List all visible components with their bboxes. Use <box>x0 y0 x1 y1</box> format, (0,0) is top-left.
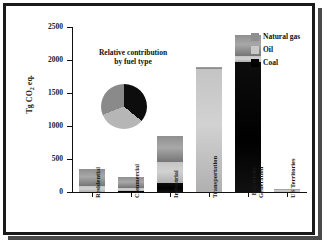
y-axis-title-main: Tg CO <box>25 90 34 113</box>
plot-area: 05001000150020002500 Tg CO2 eq. Resident… <box>15 15 315 235</box>
x-label-line: US Territories <box>289 158 296 198</box>
x-label-line: Transportation <box>211 156 218 198</box>
legend-item-coal[interactable]: Coal <box>251 58 300 67</box>
x-axis-label-commercial: Commercial <box>134 164 141 198</box>
y-tick-label: 0 <box>23 188 63 196</box>
y-tick-label: 2500 <box>23 23 63 31</box>
legend-label: Coal <box>263 58 278 67</box>
y-axis-title-tail: eq. <box>25 75 34 87</box>
figure-frame: 05001000150020002500 Tg CO2 eq. Resident… <box>0 0 324 247</box>
legend-swatch-icon <box>251 46 259 54</box>
x-tick-mark <box>92 192 93 197</box>
bar-segment-natural-gas <box>157 136 183 162</box>
legend-item-natural-gas[interactable]: Natural gas <box>251 32 300 41</box>
legend-swatch-icon <box>251 59 259 67</box>
y-tick-label: 500 <box>23 155 63 163</box>
x-label-line: Residential <box>94 167 101 198</box>
chart-legend: Natural gasOilCoal <box>251 32 300 71</box>
legend-item-oil[interactable]: Oil <box>251 45 300 54</box>
legend-swatch-icon <box>251 33 259 41</box>
chart-border: 05001000150020002500 Tg CO2 eq. Resident… <box>3 3 315 235</box>
inset-title-line2: by fuel type <box>114 57 152 66</box>
x-axis-line <box>72 192 307 193</box>
y-tick-mark <box>67 192 73 193</box>
y-axis-title-sub: 2 <box>29 87 35 90</box>
inset-title-line1: Relative contribution <box>99 48 167 57</box>
x-axis-label-transportation: Transportation <box>212 156 219 198</box>
y-axis-title: Tg CO2 eq. <box>25 56 36 132</box>
x-axis-label-industrial: Industrial <box>173 170 180 198</box>
legend-label: Natural gas <box>263 32 300 41</box>
frame-shadow-right <box>318 8 322 239</box>
x-axis-label-residential: Residential <box>95 167 102 198</box>
inset-pie-chart <box>101 84 147 129</box>
legend-label: Oil <box>263 45 273 54</box>
x-tick-mark <box>170 192 171 197</box>
x-tick-mark <box>131 192 132 197</box>
x-label-line: Industrial <box>172 170 179 198</box>
x-axis-label-us-territories: US Territories <box>290 158 297 198</box>
x-axis-label-electricity-generation: ElectricityGeneration <box>251 167 265 198</box>
frame-shadow-bottom <box>8 236 322 240</box>
inset-pie-title: Relative contribution by fuel type <box>87 48 179 67</box>
x-label-line: Generation <box>257 167 264 198</box>
x-tick-mark <box>209 192 210 197</box>
x-label-line: Commercial <box>133 164 140 198</box>
